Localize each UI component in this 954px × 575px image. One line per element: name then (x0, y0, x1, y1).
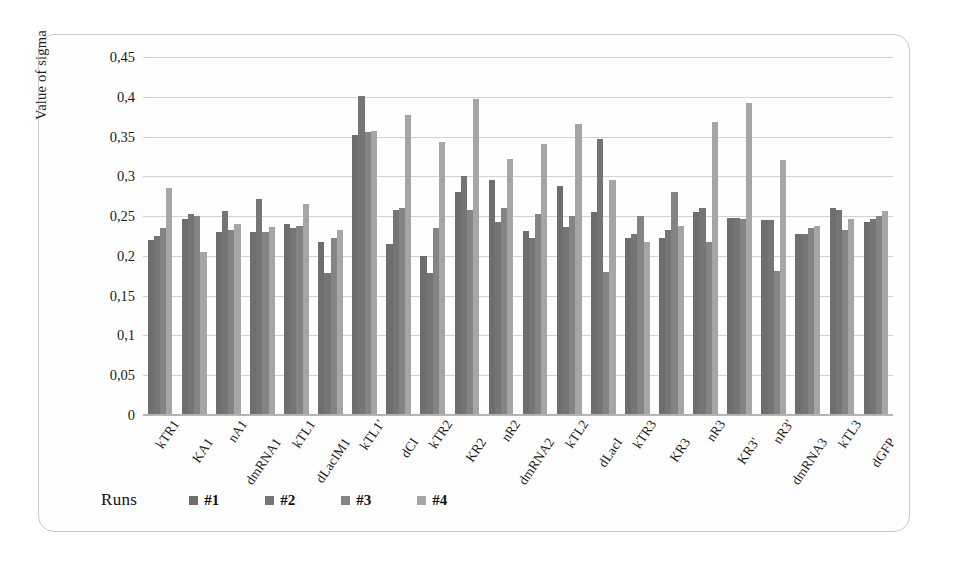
bar-groups (143, 57, 893, 415)
bar (234, 224, 240, 415)
legend-item[interactable]: #3 (341, 492, 371, 509)
bar-group (518, 57, 552, 415)
x-tick-label: dLacI (595, 435, 626, 470)
bar-group (416, 57, 450, 415)
y-tick-label: 0 (73, 407, 135, 424)
bar (166, 188, 172, 415)
x-tick-label: KR2 (462, 435, 490, 465)
bar (780, 160, 786, 415)
legend-label: #3 (356, 492, 371, 509)
legend-items: #1#2#3#4 (189, 492, 493, 509)
bar-group (143, 57, 177, 415)
x-tick-label: dmRNA2 (515, 435, 558, 488)
bar (337, 230, 343, 415)
legend-item[interactable]: #1 (189, 492, 219, 509)
bar-group (177, 57, 211, 415)
legend-swatch-icon (417, 496, 426, 505)
bar-group (654, 57, 688, 415)
y-tick-label: 0,2 (73, 247, 135, 264)
y-tick-label: 0,4 (73, 88, 135, 105)
bar-group (791, 57, 825, 415)
x-tick-label: dCI (397, 435, 422, 461)
bar (848, 219, 854, 416)
legend-swatch-icon (189, 496, 198, 505)
bar (541, 144, 547, 415)
bar-group (552, 57, 586, 415)
bar-group (484, 57, 518, 415)
bar-group (245, 57, 279, 415)
bar (439, 142, 445, 415)
bar-group (859, 57, 893, 415)
bar-group (689, 57, 723, 415)
bar-group (348, 57, 382, 415)
x-tick-label: kTR1 (153, 417, 184, 452)
bar-group (313, 57, 347, 415)
bar (644, 242, 650, 415)
bar (405, 115, 411, 415)
y-tick-label: 0,15 (73, 287, 135, 304)
bar (473, 99, 479, 415)
bar-group (586, 57, 620, 415)
bar (303, 204, 309, 415)
bar-group (620, 57, 654, 415)
bar-group (450, 57, 484, 415)
x-tick-label: nA1 (225, 417, 251, 445)
chart-screenshot: Value of sigma 0,450,40,350,30,250,20,15… (0, 0, 954, 575)
x-tick-label: dmRNA1 (243, 435, 286, 488)
y-axis-tick-labels: 0,450,40,350,30,250,20,150,10,050 (73, 35, 135, 533)
bar (269, 227, 275, 415)
legend-label: #4 (432, 492, 447, 509)
x-tick-label: nR3' (769, 417, 796, 447)
legend-item[interactable]: #4 (417, 492, 447, 509)
y-tick-label: 0,3 (73, 168, 135, 185)
x-tick-label: kTR3 (630, 417, 661, 452)
bar (678, 226, 684, 415)
y-tick-label: 0,1 (73, 327, 135, 344)
bar (746, 103, 752, 415)
x-tick-label: dGFP (868, 435, 899, 470)
x-tick-label: KR3' (734, 435, 763, 467)
x-tick-label: nR2 (498, 417, 524, 445)
legend-item[interactable]: #2 (265, 492, 295, 509)
y-tick-label: 0,05 (73, 367, 135, 384)
legend-swatch-icon (341, 496, 350, 505)
y-tick-label: 0,25 (73, 208, 135, 225)
bar (609, 180, 615, 415)
y-axis-title: Value of sigma (33, 0, 50, 185)
bar-group (382, 57, 416, 415)
x-tick-label: dmRNA3 (788, 435, 831, 488)
legend-swatch-icon (265, 496, 274, 505)
chart-frame: Value of sigma 0,450,40,350,30,250,20,15… (38, 34, 910, 532)
legend-title: Runs (101, 490, 137, 510)
bar-group (825, 57, 859, 415)
gridline (143, 415, 893, 416)
bar-group (211, 57, 245, 415)
bar (575, 124, 581, 415)
bar (882, 211, 888, 415)
bar (200, 252, 206, 415)
x-tick-label: dLacIM1 (312, 435, 354, 486)
x-tick-label: KR3 (667, 435, 695, 465)
x-tick-label: nR3 (703, 417, 729, 445)
x-tick-label: kTL1' (356, 417, 388, 453)
plot-area (143, 57, 893, 415)
legend-label: #1 (204, 492, 219, 509)
bar-group (723, 57, 757, 415)
bar (712, 122, 718, 415)
chart-legend: Runs #1#2#3#4 (101, 490, 493, 510)
x-tick-label: kTL3 (835, 417, 865, 451)
x-tick-label: KA1 (189, 435, 217, 466)
legend-label: #2 (280, 492, 295, 509)
x-tick-label: kTR2 (425, 417, 456, 452)
bar (507, 159, 513, 415)
bar (371, 131, 377, 415)
x-tick-label: kTL2 (562, 417, 592, 451)
x-axis-line (143, 414, 893, 415)
bar-group (279, 57, 313, 415)
bar-group (757, 57, 791, 415)
y-tick-label: 0,35 (73, 128, 135, 145)
y-tick-label: 0,45 (73, 49, 135, 66)
bar (814, 226, 820, 415)
x-tick-label: kTL1 (289, 417, 319, 451)
